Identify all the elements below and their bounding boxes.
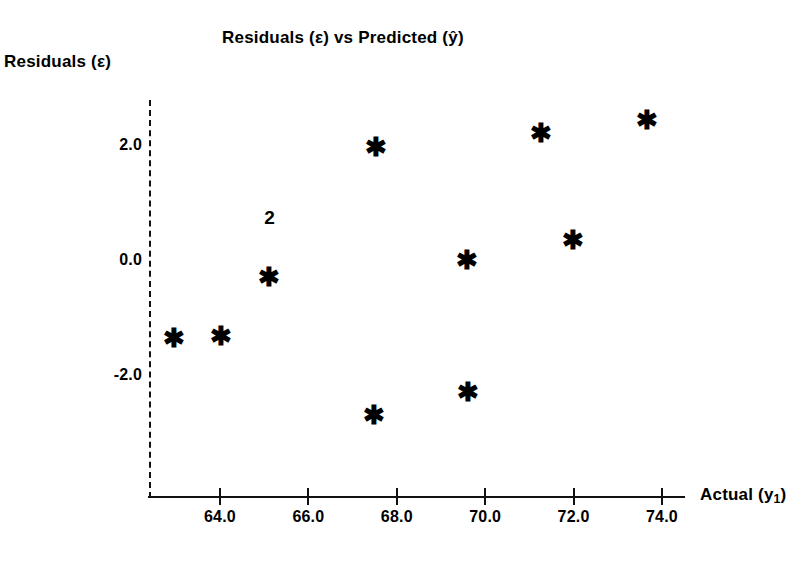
y-tick-label-0.0: 0.0 <box>119 251 142 269</box>
data-point-marker: ✱ <box>636 107 658 133</box>
x-tick-label-68.0: 68.0 <box>381 508 413 526</box>
data-point-marker: ✱ <box>457 379 479 405</box>
data-point-marker: ✱ <box>210 323 232 349</box>
x-tick-label-64.0: 64.0 <box>204 508 236 526</box>
data-point-marker: ✱ <box>363 402 385 428</box>
data-point-marker: ✱ <box>163 325 185 351</box>
x-tick-label-66.0: 66.0 <box>292 508 324 526</box>
x-axis-label-main: Actual (y <box>700 485 774 504</box>
x-tick-74.0 <box>661 488 663 505</box>
x-axis-label: Actual (y1) <box>700 485 786 506</box>
x-tick-label-70.0: 70.0 <box>469 508 501 526</box>
x-axis-label-subscript: 1 <box>774 492 781 506</box>
x-tick-66.0 <box>307 488 309 505</box>
x-axis-label-tail: ) <box>781 485 787 504</box>
data-point-marker: ✱ <box>530 120 552 146</box>
x-tick-68.0 <box>396 488 398 505</box>
data-point-marker: ✱ <box>365 134 387 160</box>
x-tick-label-74.0: 74.0 <box>646 508 678 526</box>
data-point-marker: ✱ <box>456 247 478 273</box>
x-tick-label-72.0: 72.0 <box>558 508 590 526</box>
data-point-marker: ✱ <box>258 264 280 290</box>
data-point-marker: ✱ <box>562 227 584 253</box>
y-axis-label: Residuals (ε) <box>4 52 111 72</box>
x-tick-72.0 <box>573 488 575 505</box>
y-tick-label--2.0: -2.0 <box>114 366 142 384</box>
y-axis-dashed-line <box>149 100 151 498</box>
data-point-count-label: 2 <box>264 207 275 226</box>
x-tick-70.0 <box>484 488 486 505</box>
x-axis-line <box>148 496 685 498</box>
y-tick-label-2.0: 2.0 <box>119 136 142 154</box>
chart-title: Residuals (ε) vs Predicted (ŷ) <box>222 28 464 48</box>
x-tick-64.0 <box>219 488 221 505</box>
residual-plot-figure: Residuals (ε) vs Predicted (ŷ) Residuals… <box>0 0 801 562</box>
